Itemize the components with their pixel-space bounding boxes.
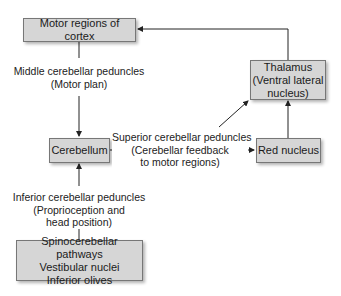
superior-peduncles-subtitle-1: (Cerebellar feedback [112, 144, 248, 157]
cerebellum-node: Cerebellum [49, 138, 110, 163]
superior-peduncles-title: Superior cerebellar peduncles [112, 131, 248, 144]
inferior-peduncles-subtitle-1: (Proprioception and [10, 204, 148, 217]
thalamus-label-2: (Ventral lateral [253, 74, 324, 87]
inferior-peduncles-title: Inferior cerebellar peduncles [10, 191, 148, 204]
superior-peduncles-subtitle-2: to motor regions) [112, 156, 248, 169]
inputs-node: Spinocerebellar pathways Vestibular nucl… [16, 240, 143, 281]
middle-peduncles-title: Middle cerebellar peduncles [10, 65, 148, 78]
middle-peduncles-subtitle: (Motor plan) [10, 78, 148, 91]
inferior-peduncles-label: Inferior cerebellar peduncles (Proprioce… [10, 191, 148, 229]
cerebellum-label: Cerebellum [51, 144, 107, 157]
thalamus-label-1: Thalamus [264, 61, 312, 74]
red-nucleus-node: Red nucleus [256, 138, 321, 163]
middle-peduncles-label: Middle cerebellar peduncles (Motor plan) [10, 65, 148, 90]
thalamus-label-3: nucleus) [267, 87, 309, 100]
thalamus-node: Thalamus (Ventral lateral nucleus) [250, 60, 326, 100]
inputs-label-2: Vestibular nuclei [39, 261, 119, 274]
motor-cortex-node: Motor regions of cortex [23, 18, 136, 42]
red-nucleus-label: Red nucleus [258, 144, 319, 157]
motor-cortex-label: Motor regions of cortex [24, 17, 135, 43]
inferior-peduncles-subtitle-2: head position) [10, 216, 148, 229]
inputs-label-3: Inferior olives [47, 274, 112, 287]
inputs-label-1: Spinocerebellar pathways [17, 235, 142, 261]
superior-peduncles-label: Superior cerebellar peduncles (Cerebella… [112, 131, 248, 169]
